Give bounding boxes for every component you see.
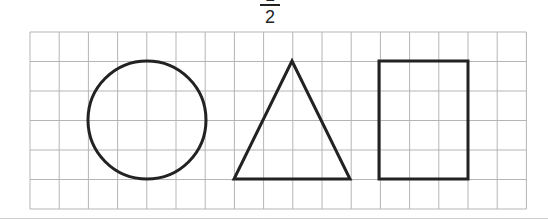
grid	[30, 32, 526, 209]
grid-diagram	[0, 0, 548, 220]
